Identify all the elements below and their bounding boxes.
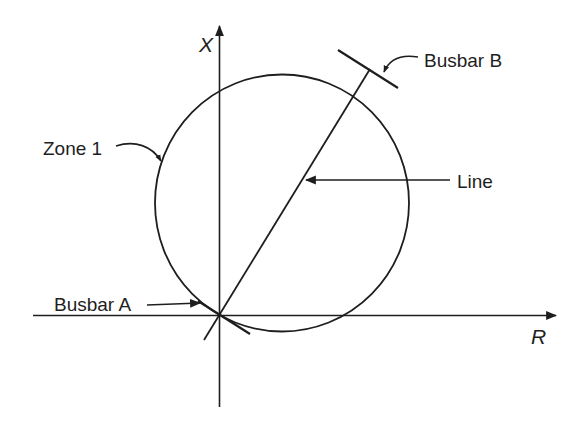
impedance-diagram: X R Zone 1 Busbar B Line Busbar A (0, 0, 584, 421)
x-axis-label: X (198, 33, 214, 56)
busbar-a-pointer-arrow (147, 303, 200, 305)
line-label: Line (457, 171, 493, 192)
busbar-b-bar (338, 50, 398, 88)
zone1-circle (155, 75, 409, 332)
busbar-a-label: Busbar A (54, 294, 131, 315)
zone1-pointer-arrow (116, 144, 161, 161)
zone1-label: Zone 1 (43, 138, 102, 159)
busbar-b-label: Busbar B (424, 50, 502, 71)
r-axis-label: R (531, 325, 546, 348)
busbar-b-pointer-arrow (384, 56, 418, 72)
protected-line (204, 69, 370, 340)
